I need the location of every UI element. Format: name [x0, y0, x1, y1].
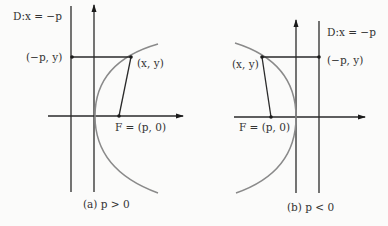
focus-label-a: F = (p, 0) — [115, 121, 166, 133]
figure-b: D:x = −p (−p, y) (x, y) F = (p, 0) (b) p… — [232, 20, 376, 213]
caption-a: (a) p > 0 — [83, 198, 130, 210]
figure-a: D:x = −p (−p, y) (x, y) F = (p, 0) (a) p… — [13, 5, 183, 210]
focus-point-a — [117, 114, 121, 118]
distance-to-focus-b — [262, 57, 271, 117]
directrix-point-label-b: (−p, y) — [327, 54, 363, 66]
directrix-label-a: D:x = −p — [13, 10, 62, 22]
parabola-diagrams: D:x = −p (−p, y) (x, y) F = (p, 0) (a) p… — [0, 0, 388, 226]
directrix-label-b: D:x = −p — [327, 26, 376, 38]
distance-to-focus-a — [119, 57, 131, 116]
parabola-point-label-b: (x, y) — [232, 58, 259, 70]
focus-label-b: F = (p, 0) — [239, 121, 290, 133]
caption-b: (b) p < 0 — [287, 201, 334, 213]
directrix-point-label-a: (−p, y) — [26, 51, 62, 63]
directrix-point-a — [70, 55, 74, 59]
focus-point-b — [269, 115, 273, 119]
parabola-point-label-a: (x, y) — [137, 57, 164, 69]
parabola-point-a — [129, 55, 133, 59]
parabola-point-b — [260, 55, 264, 59]
directrix-point-b — [317, 55, 321, 59]
